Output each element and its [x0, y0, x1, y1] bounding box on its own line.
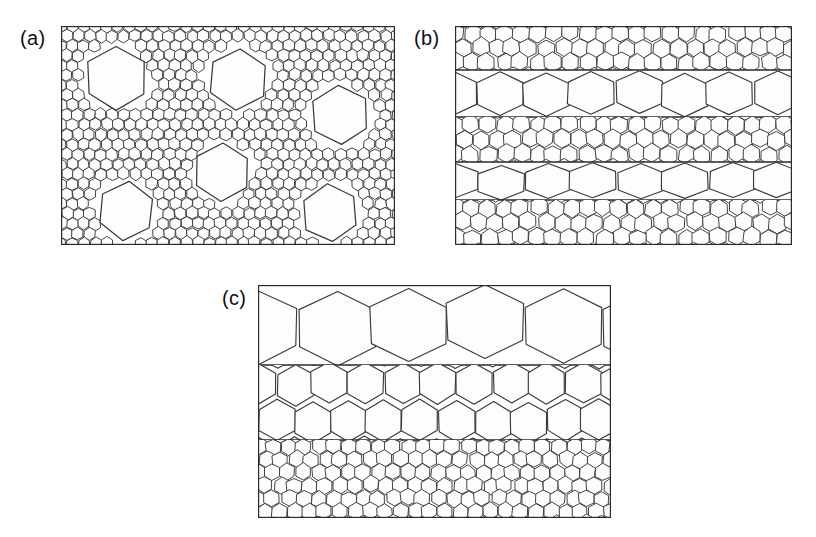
panel-c-label: (c): [222, 287, 246, 310]
panel-c-foam-diagram: [258, 285, 611, 518]
panel-b-label: (b): [414, 27, 439, 50]
panel-b-foam-diagram: [455, 26, 792, 245]
panel-a-foam-diagram: [61, 26, 395, 245]
figure-root: (a) (b) (c) Two-dimensional hexagonal fo…: [0, 0, 816, 537]
panel-a-label: (a): [20, 27, 45, 50]
